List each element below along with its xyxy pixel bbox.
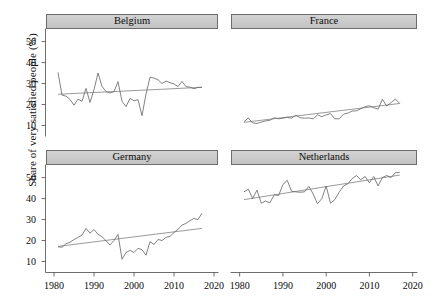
panel-france: France bbox=[231, 14, 417, 136]
series-line-belgium bbox=[58, 72, 202, 115]
x-tick-label: 2010 bbox=[351, 280, 387, 291]
x-axis-netherlands bbox=[231, 272, 417, 279]
y-tick-label: 20 bbox=[14, 99, 36, 110]
x-tick-label: 1990 bbox=[265, 280, 301, 291]
y-tick-label: 50 bbox=[14, 172, 36, 183]
panel-germany: Germany bbox=[46, 150, 218, 272]
panel-strip-label-france: France bbox=[231, 14, 417, 29]
x-tick-label: 1990 bbox=[76, 280, 112, 291]
trend-line-netherlands bbox=[244, 175, 400, 200]
trend-line-germany bbox=[58, 228, 202, 246]
series-line-germany bbox=[58, 213, 202, 259]
y-tick-label: 30 bbox=[14, 78, 36, 89]
y-tick-label: 50 bbox=[14, 36, 36, 47]
plot-area-belgium bbox=[46, 29, 218, 136]
panel-netherlands: Netherlands bbox=[231, 150, 417, 272]
panel-belgium: Belgium bbox=[46, 14, 218, 136]
plot-area-netherlands bbox=[231, 165, 417, 272]
x-tick-label: 2010 bbox=[156, 280, 192, 291]
y-tick-label: 20 bbox=[14, 235, 36, 246]
x-tick-label: 1980 bbox=[36, 280, 72, 291]
x-tick-label: 2020 bbox=[395, 280, 431, 291]
x-tick-label: 2000 bbox=[116, 280, 152, 291]
y-axis-germany bbox=[39, 165, 46, 272]
y-tick-label: 10 bbox=[14, 256, 36, 267]
plot-area-germany bbox=[46, 165, 218, 272]
panel-strip-label-germany: Germany bbox=[46, 150, 218, 165]
trend-line-belgium bbox=[58, 87, 202, 94]
x-axis-germany bbox=[46, 272, 218, 279]
panel-strip-label-belgium: Belgium bbox=[46, 14, 218, 29]
trend-line-france bbox=[244, 103, 400, 122]
y-tick-label: 30 bbox=[14, 214, 36, 225]
y-tick-label: 10 bbox=[14, 120, 36, 131]
chart-figure: Share of very satisfied people (%) Belgi… bbox=[0, 0, 436, 308]
series-line-netherlands bbox=[244, 172, 400, 203]
y-tick-label: 40 bbox=[14, 193, 36, 204]
x-tick-label: 1980 bbox=[222, 280, 258, 291]
y-tick-label: 40 bbox=[14, 57, 36, 68]
plot-area-france bbox=[231, 29, 417, 136]
y-axis-belgium bbox=[39, 29, 46, 136]
x-tick-label: 2000 bbox=[308, 280, 344, 291]
panel-strip-label-netherlands: Netherlands bbox=[231, 150, 417, 165]
y-axis-title: Share of very satisfied people (%) bbox=[26, 0, 38, 225]
